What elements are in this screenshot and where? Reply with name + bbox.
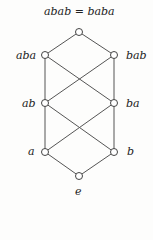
node-aba [42,52,49,59]
node-a [42,149,49,156]
label-aba: aba [16,50,36,61]
node-b [111,149,118,156]
edge [45,32,79,55]
node-bab [111,52,118,59]
edge [45,152,79,176]
label-ab: ab [22,98,36,109]
edge [79,152,114,176]
node-ba [111,100,118,107]
node-top [76,29,83,36]
node-e [76,173,83,180]
edge [79,32,114,55]
label-e: e [75,186,82,197]
node-ab [42,100,49,107]
label-a: a [28,146,35,157]
label-bab: bab [126,50,147,61]
label-ba: ba [126,98,140,109]
label-b: b [127,146,134,157]
